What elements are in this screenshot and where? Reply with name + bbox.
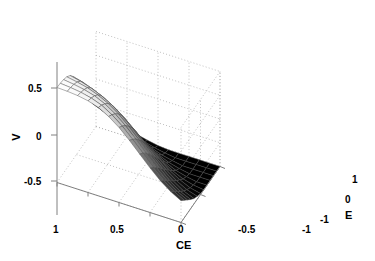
- e-tick-1: 1: [352, 174, 358, 185]
- v-axis-label: V: [10, 133, 22, 140]
- v-tick-0: 0: [36, 131, 42, 142]
- v-tick--0.5: -0.5: [24, 176, 41, 187]
- e-axis-label: E: [345, 209, 352, 221]
- plot-background: [0, 0, 375, 261]
- ce-tick--1: -1: [302, 224, 311, 235]
- ce-tick-0.5: 0.5: [110, 224, 124, 235]
- ce-tick-0: 0: [178, 224, 184, 235]
- surface-plot-canvas: [0, 0, 375, 261]
- ce-axis-label: CE: [176, 239, 191, 251]
- ce-tick--0.5: -0.5: [238, 224, 255, 235]
- ce-tick-1: 1: [53, 224, 59, 235]
- v-tick-0.5: 0.5: [28, 83, 42, 94]
- e-tick-0: 0: [345, 194, 351, 205]
- e-tick--1: -1: [320, 214, 329, 225]
